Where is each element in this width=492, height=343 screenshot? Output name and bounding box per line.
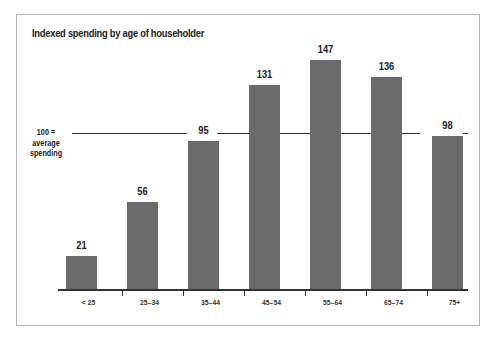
bar-value-label: 95 bbox=[190, 124, 216, 136]
category-label: 25–34 bbox=[124, 298, 176, 307]
x-tick bbox=[305, 289, 306, 296]
ref-label-average: average bbox=[26, 138, 67, 148]
x-tick bbox=[122, 289, 123, 296]
bar-value-label: 136 bbox=[373, 60, 399, 72]
reference-line bbox=[463, 133, 468, 134]
bar bbox=[66, 256, 97, 289]
chart-title: Indexed spending by age of householder bbox=[32, 27, 204, 39]
x-tick bbox=[244, 289, 245, 296]
bar bbox=[371, 77, 402, 289]
ref-label-value: 100 = bbox=[26, 127, 67, 137]
x-tick bbox=[183, 289, 184, 296]
category-label: 35–44 bbox=[185, 298, 237, 307]
bar bbox=[432, 136, 463, 289]
bar-value-label: 21 bbox=[68, 239, 94, 251]
bar-value-label: 98 bbox=[434, 119, 460, 131]
category-label: 75+ bbox=[429, 298, 481, 307]
bar bbox=[249, 85, 280, 289]
reference-line bbox=[72, 133, 187, 134]
category-label: < 25 bbox=[63, 298, 115, 307]
bar-value-label: 56 bbox=[129, 185, 155, 197]
x-tick bbox=[366, 289, 367, 296]
category-label: 55–64 bbox=[307, 298, 359, 307]
x-axis bbox=[58, 289, 468, 291]
bar bbox=[310, 60, 341, 289]
bar bbox=[127, 202, 158, 289]
bar-value-label: 147 bbox=[312, 43, 338, 55]
x-tick bbox=[427, 289, 428, 296]
ref-label-spending: spending bbox=[26, 148, 67, 158]
bar bbox=[188, 141, 219, 289]
category-label: 65–74 bbox=[368, 298, 420, 307]
category-label: 45–54 bbox=[246, 298, 298, 307]
bar-value-label: 131 bbox=[251, 68, 277, 80]
